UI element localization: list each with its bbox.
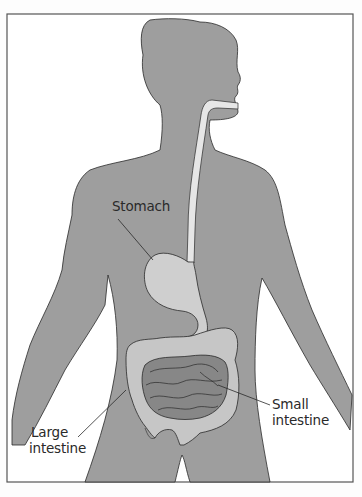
small-intestine-label-line1: Small — [272, 397, 309, 412]
small-intestine-label-line2: intestine — [272, 413, 329, 428]
large-intestine-label-line2: intestine — [29, 441, 86, 456]
stomach-label: Stomach — [112, 199, 170, 214]
small-intestine-organ — [142, 355, 228, 419]
large-intestine-label-line1: Large — [31, 425, 68, 440]
